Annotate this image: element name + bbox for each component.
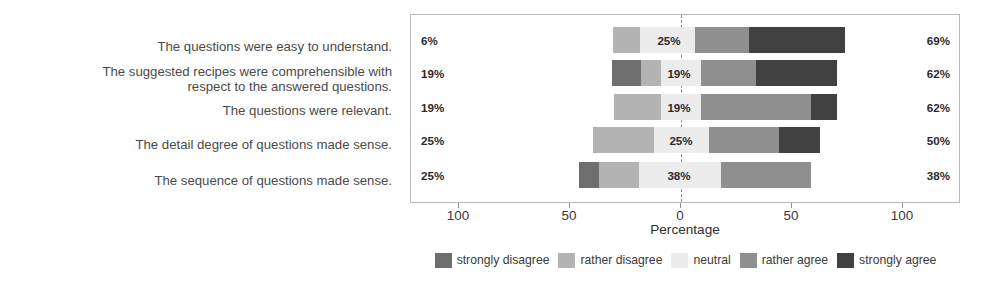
legend-item-strongly-agree: strongly agree [837, 253, 936, 268]
category-label: The suggested recipes were comprehensibl… [102, 65, 392, 94]
segment-rather-disagree [613, 27, 640, 53]
legend-swatch-icon [671, 253, 688, 268]
segment-rather-agree [701, 60, 756, 86]
x-tick-label: 50 [784, 208, 799, 223]
legend-swatch-icon [740, 253, 757, 268]
segment-strongly-disagree [612, 60, 641, 86]
segment-strongly-disagree [579, 162, 599, 188]
x-tick-label: 0 [676, 208, 683, 223]
segment-rather-agree [701, 94, 811, 120]
segment-rather-disagree [599, 162, 639, 188]
legend-label: rather disagree [580, 253, 662, 267]
x-tick-label: 100 [447, 208, 469, 223]
neutral-value-label: 38% [667, 169, 690, 182]
chart-legend: strongly disagree rather disagree neutra… [410, 250, 970, 270]
bar-row: 6% 25% 69% [411, 27, 959, 53]
bar-row: 19% 19% 62% [411, 94, 959, 120]
left-total-label: 25% [421, 169, 444, 182]
neutral-value-label: 25% [669, 134, 692, 147]
bar-row: 25% 25% 50% [411, 127, 959, 153]
right-total-label: 69% [927, 34, 950, 47]
legend-label: rather agree [762, 253, 828, 267]
legend-item-strongly-disagree: strongly disagree [435, 253, 550, 268]
neutral-value-label: 19% [667, 101, 690, 114]
neutral-value-label: 25% [657, 34, 680, 47]
stacked-bar [411, 27, 959, 53]
x-axis-title: Percentage [410, 222, 960, 237]
segment-strongly-agree [811, 94, 837, 120]
right-total-label: 38% [927, 169, 950, 182]
left-total-label: 6% [421, 34, 438, 47]
right-total-label: 62% [927, 67, 950, 80]
segment-strongly-agree [749, 27, 845, 53]
left-total-label: 25% [421, 134, 444, 147]
legend-swatch-icon [435, 253, 452, 268]
legend-label: strongly disagree [457, 253, 550, 267]
legend-label: neutral [693, 253, 730, 267]
segment-rather-agree [709, 127, 779, 153]
category-axis-labels: The questions were easy to understand. T… [0, 14, 400, 203]
legend-item-neutral: neutral [671, 253, 730, 268]
segment-strongly-agree [756, 60, 837, 86]
category-label: The sequence of questions made sense. [154, 174, 392, 189]
legend-item-rather-disagree: rather disagree [558, 253, 662, 268]
right-total-label: 62% [927, 101, 950, 114]
x-tick-label: 50 [562, 208, 577, 223]
bar-row: 19% 19% 62% [411, 60, 959, 86]
chart-root: The questions were easy to understand. T… [0, 0, 983, 297]
segment-rather-disagree [593, 127, 654, 153]
left-total-label: 19% [421, 101, 444, 114]
legend-item-rather-agree: rather agree [740, 253, 828, 268]
legend-label: strongly agree [859, 253, 936, 267]
category-label: The questions were easy to understand. [157, 40, 392, 55]
legend-swatch-icon [837, 253, 854, 268]
segment-rather-agree [721, 162, 811, 188]
category-label: The questions were relevant. [223, 104, 392, 119]
bar-row: 25% 38% 38% [411, 162, 959, 188]
left-total-label: 19% [421, 67, 444, 80]
right-total-label: 50% [927, 134, 950, 147]
neutral-value-label: 19% [667, 67, 690, 80]
legend-swatch-icon [558, 253, 575, 268]
category-label: The detail degree of questions made sens… [135, 138, 392, 153]
plot-area: 6% 25% 69% 19% 19% 62% [410, 14, 960, 203]
segment-rather-disagree [641, 60, 661, 86]
segment-rather-disagree [614, 94, 661, 120]
segment-strongly-agree [779, 127, 820, 153]
segment-rather-agree [695, 27, 749, 53]
x-tick-label: 100 [891, 208, 913, 223]
